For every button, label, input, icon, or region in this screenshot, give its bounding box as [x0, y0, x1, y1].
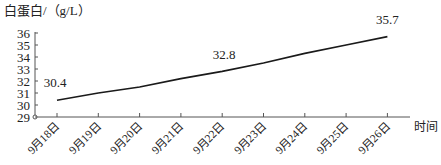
x-tick-label: 9月24日: [273, 120, 309, 156]
x-tick-label: 9月21日: [149, 120, 185, 156]
data-label: 30.4: [44, 75, 67, 90]
x-tick-label: 9月18日: [25, 120, 61, 156]
albumin-series-line: [57, 37, 387, 101]
x-axis-label: 时间: [414, 120, 438, 134]
x-tick-label: 9月19日: [66, 120, 102, 156]
x-tick-label: 9月22日: [190, 120, 226, 156]
data-label: 35.7: [376, 12, 399, 27]
x-tick-label: 9月25日: [314, 120, 350, 156]
x-tick-label: 9月26日: [356, 120, 392, 156]
x-tick-label: 9月20日: [108, 120, 144, 156]
y-axis-label: 白蛋白/（g/L）: [4, 3, 91, 18]
y-tick-label: 36: [17, 26, 31, 41]
x-tick-label: 9月23日: [232, 120, 268, 156]
data-label: 32.8: [213, 47, 236, 62]
albumin-line-chart: 2930313233343536白蛋白/（g/L）9月18日9月19日9月20日…: [0, 0, 441, 165]
